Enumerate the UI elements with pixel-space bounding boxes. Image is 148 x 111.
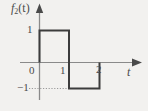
x-axis-arrowhead — [132, 59, 142, 67]
plot-canvas — [0, 0, 148, 111]
y-axis-label: f2(t) — [11, 2, 30, 16]
y-axis-arrowhead — [36, 4, 43, 14]
waveform-square-wave — [40, 31, 100, 89]
y-tick-label-1: 1 — [27, 24, 33, 35]
x-tick-label-1: 1 — [60, 65, 66, 76]
y-tick-label-negative-1: −1 — [17, 82, 29, 93]
origin-label: 0 — [29, 65, 35, 76]
x-axis-label: t — [127, 66, 130, 78]
signal-plot-figure: f2(t) t 1 −1 0 1 2 — [0, 0, 148, 111]
x-tick-label-2: 2 — [96, 64, 102, 75]
y-axis-label-arg: (t) — [18, 1, 29, 15]
